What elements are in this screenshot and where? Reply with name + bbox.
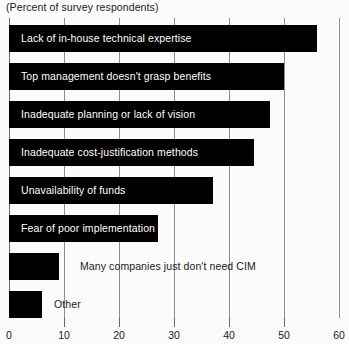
bar-row: Inadequate planning or lack of vision (0, 101, 349, 128)
tick-mark-40 (229, 318, 230, 327)
tick-label-50: 50 (269, 329, 299, 341)
bar-row: Lack of in-house technical expertise (0, 25, 349, 52)
bar-label: Inadequate planning or lack of vision (21, 101, 195, 128)
bar (9, 291, 42, 318)
bar-label: Many companies just don't need CIM (80, 253, 256, 280)
tick-label-0: 0 (0, 329, 24, 341)
bar-row: Inadequate cost-justification methods (0, 139, 349, 166)
bar-chart: (Percent of survey respondents) Lack of … (0, 0, 349, 344)
chart-title: (Percent of survey respondents) (6, 1, 159, 13)
bar-label: Top management doesn't grasp benefits (21, 63, 211, 90)
bar-row: Unavailability of funds (0, 177, 349, 204)
plot-area: Lack of in-house technical expertiseTop … (0, 18, 349, 318)
bar (9, 253, 59, 280)
bar-row: Other (0, 291, 349, 318)
bar-label: Inadequate cost-justification methods (21, 139, 198, 166)
tick-label-30: 30 (159, 329, 189, 341)
tick-label-10: 10 (49, 329, 79, 341)
bar-row: Many companies just don't need CIM (0, 253, 349, 280)
tick-mark-30 (174, 318, 175, 327)
x-axis: 0102030405060 (0, 318, 349, 344)
tick-mark-10 (64, 318, 65, 327)
tick-mark-20 (119, 318, 120, 327)
tick-label-40: 40 (214, 329, 244, 341)
tick-label-20: 20 (104, 329, 134, 341)
tick-label-60: 60 (324, 329, 349, 341)
bar-label: Other (54, 291, 81, 318)
bar-label: Lack of in-house technical expertise (21, 25, 192, 52)
bar-label: Unavailability of funds (21, 177, 125, 204)
bar-row: Top management doesn't grasp benefits (0, 63, 349, 90)
tick-mark-50 (284, 318, 285, 327)
bar-row: Fear of poor implementation (0, 215, 349, 242)
bar-label: Fear of poor implementation (21, 215, 155, 242)
